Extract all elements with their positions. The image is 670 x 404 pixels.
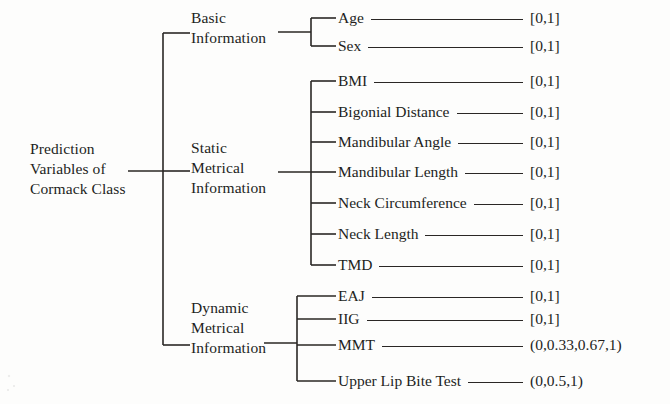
leader-line [468,382,523,383]
leaf-label: MMT [338,335,375,355]
category-label-dynamic-metrical-information: Dynamic Metrical Information [191,298,313,358]
leader-line [382,346,523,347]
leaf-value: (0,0.33,0.67,1) [530,335,658,355]
leaf-label: Mandibular Angle [338,132,451,152]
leaf-value: [0,1] [530,132,658,152]
leaf-label: Neck Length [338,224,418,244]
leaf-row: Mandibular Angle[0,1] [338,132,658,152]
leader-line [371,19,523,20]
leaf-label: Bigonial Distance [338,102,450,122]
leaf-value: [0,1] [530,224,658,244]
scan-artifact [6,372,18,394]
leaf-row: Mandibular Length[0,1] [338,162,658,182]
leaf-row: Upper Lip Bite Test(0,0.5,1) [338,371,658,391]
leaf-row: Bigonial Distance[0,1] [338,102,658,122]
leader-line [458,143,523,144]
category-label-static-metrical-information: Static Metrical Information [191,138,309,198]
leaf-value: [0,1] [530,36,658,56]
leader-line [368,47,523,48]
tree-diagram: Prediction Variables of Cormack Class Ba… [0,0,670,404]
leaf-value: (0,0.5,1) [530,371,658,391]
leaf-label: BMI [338,71,367,91]
leader-line [457,113,524,114]
leader-line [372,297,523,298]
leaf-row: BMI[0,1] [338,71,658,91]
leaf-row: Neck Length[0,1] [338,224,658,244]
leaf-value: [0,1] [530,193,658,213]
category-label-basic-information: Basic Information [191,8,309,48]
leaf-row: IIG[0,1] [338,309,658,329]
leaf-row: EAJ[0,1] [338,286,658,306]
leaf-value: [0,1] [530,255,658,275]
leaf-label: Neck Circumference [338,193,467,213]
leaf-row: Neck Circumference[0,1] [338,193,658,213]
leaf-value: [0,1] [530,102,658,122]
root-node-label: Prediction Variables of Cormack Class [30,139,165,199]
leader-line [367,320,523,321]
leaf-row: TMD[0,1] [338,255,658,275]
leaf-value: [0,1] [530,162,658,182]
leaf-value: [0,1] [530,8,658,28]
leaf-value: [0,1] [530,286,658,306]
leader-line [474,204,523,205]
leaf-label: Sex [338,36,361,56]
leaf-label: Mandibular Length [338,162,458,182]
leader-line [374,82,523,83]
leaf-value: [0,1] [530,309,658,329]
leader-line [379,266,523,267]
leaf-label: EAJ [338,286,365,306]
leaf-value: [0,1] [530,71,658,91]
leaf-label: Age [338,8,364,28]
leaf-row: Age[0,1] [338,8,658,28]
leaf-label: Upper Lip Bite Test [338,371,461,391]
leader-line [425,235,523,236]
leaf-row: Sex[0,1] [338,36,658,56]
leader-line [465,173,523,174]
leaf-label: IIG [338,309,360,329]
leaf-row: MMT(0,0.33,0.67,1) [338,335,658,355]
leaf-label: TMD [338,255,372,275]
